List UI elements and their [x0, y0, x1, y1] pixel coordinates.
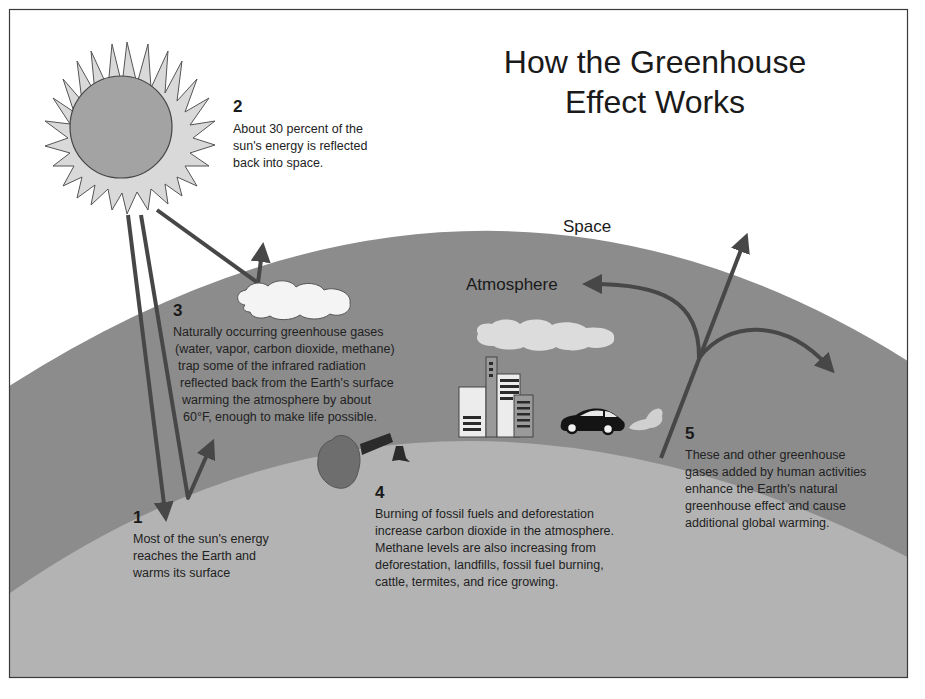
step-description: Most of the sun's energy reaches the Ear… — [133, 531, 269, 582]
space-label: Space — [563, 217, 611, 237]
step-1: 1 Most of the sun's energy reaches the E… — [133, 508, 269, 582]
step-5: 5 These and other greenhouse gases added… — [685, 424, 866, 532]
step-number: 4 — [375, 483, 614, 503]
step-2: 2 About 30 percent of the sun's energy i… — [233, 97, 367, 172]
step-4: 4 Burning of fossil fuels and deforestat… — [375, 483, 614, 591]
step-number: 1 — [133, 508, 269, 528]
step-number: 5 — [685, 424, 866, 444]
step-description: About 30 percent of the sun's energy is … — [233, 121, 367, 172]
title-line-1: How the Greenhouse — [430, 42, 880, 82]
atmosphere-label: Atmosphere — [466, 275, 558, 295]
step-description: These and other greenhouse gases added b… — [685, 447, 866, 532]
title-line-2: Effect Works — [430, 82, 880, 122]
step-description: Naturally occurring greenhouse gases (wa… — [173, 324, 395, 426]
step-number: 3 — [173, 301, 395, 321]
page-title: How the Greenhouse Effect Works — [430, 42, 880, 122]
step-number: 2 — [233, 97, 367, 117]
step-3: 3 Naturally occurring greenhouse gases (… — [173, 301, 395, 426]
step-description: Burning of fossil fuels and deforestatio… — [375, 506, 614, 591]
